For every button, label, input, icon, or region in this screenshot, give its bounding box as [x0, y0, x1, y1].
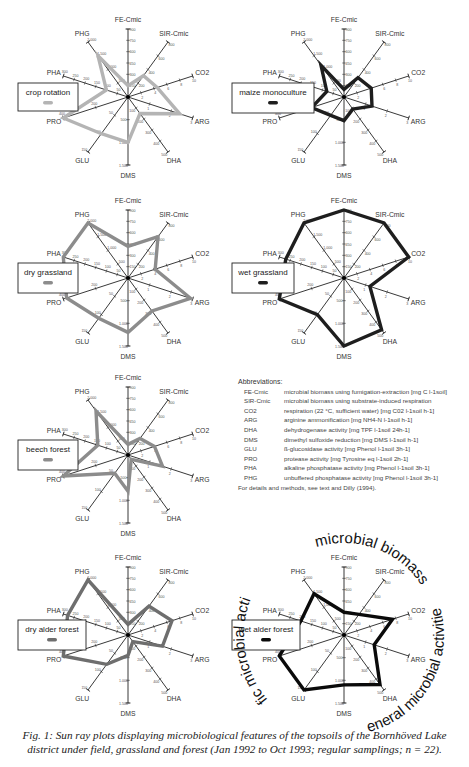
- axis-tick-label: 10: [192, 79, 196, 83]
- axis-label: PHA: [263, 607, 277, 614]
- axis-tick-label: 6: [383, 268, 385, 272]
- axis-tick-label: 50: [325, 649, 329, 653]
- axis-tick-label: 2.000: [303, 38, 312, 42]
- axis-tick-label: 50: [333, 88, 337, 92]
- axis-label: PHG: [75, 30, 90, 37]
- axis-tick-label: 750: [346, 577, 352, 581]
- abbreviation-key: DHA: [238, 425, 284, 435]
- axis-tick-label: 6: [383, 87, 385, 91]
- axis-tick-label: 200: [137, 301, 143, 305]
- axis-tick-label: 900: [346, 566, 352, 570]
- axis-tick-label: 300: [62, 608, 68, 612]
- axis-tick-label: 600: [375, 57, 381, 61]
- axis-tick-label: 200: [307, 640, 313, 644]
- axis-label: SIR-Cmic: [159, 568, 189, 575]
- axis-label: FE-Cmic: [115, 554, 142, 561]
- axis-tick-label: 400: [153, 500, 159, 504]
- axis-tick-label: 2: [385, 295, 387, 299]
- axis-label: PHA: [47, 69, 61, 76]
- radar-plot: 150300450600750900FE-Cmic200400600800SIR…: [18, 197, 210, 360]
- radar-plot: 150300450600750900FE-Cmic200400600800SIR…: [18, 374, 210, 537]
- axis-label: DMS: [120, 172, 136, 179]
- axis-label: PRO: [46, 476, 61, 483]
- axis-tick-label: 500: [337, 299, 343, 303]
- axis-tick-label: 150: [94, 81, 100, 85]
- axis-tick-label: 50: [333, 626, 337, 630]
- axis-tick-label: 300: [62, 70, 68, 74]
- abbreviation-key: FE-Cmic: [238, 387, 284, 397]
- axis-tick-label: 1.000: [335, 679, 344, 683]
- axis-label: CO2: [411, 69, 425, 76]
- abbreviation-row: GLUß-glucosidase activity [mg Phenol l-1…: [238, 444, 466, 454]
- axis-tick-label: 100: [129, 290, 135, 294]
- legend-label: dry grassland: [24, 268, 72, 277]
- axis-tick-label: 1.500: [335, 702, 344, 706]
- axis-label: ARG: [411, 299, 426, 306]
- axis-tick-label: 100: [345, 290, 351, 294]
- axis-tick-label: 400: [149, 252, 155, 256]
- abbreviation-key: GLU: [238, 444, 284, 454]
- axis-tick-label: 1: [147, 465, 149, 469]
- axis-label: DMS: [120, 353, 136, 360]
- axis-label: PRO: [46, 656, 61, 663]
- axis-label: GLU: [291, 157, 305, 164]
- abbreviation-row: PROprotease activity [mg Tyrosine eq l-1…: [238, 454, 466, 464]
- axis-label: PHG: [291, 568, 306, 575]
- axis-tick-label: 2: [385, 114, 387, 118]
- axis-label: GLU: [75, 157, 89, 164]
- axis-tick-label: 2: [169, 295, 171, 299]
- axis-tick-label: 1: [363, 645, 365, 649]
- abbreviation-row: FE-Cmicmicrobial biomass using fumigatio…: [238, 387, 466, 397]
- axis-tick-label: 50: [117, 88, 121, 92]
- axis-tick-label: 200: [83, 258, 89, 262]
- axis-tick-label: 3: [190, 479, 192, 483]
- plot-center: [342, 276, 346, 280]
- axis-tick-label: 10: [192, 260, 196, 264]
- axis-tick-label: 3: [190, 121, 192, 125]
- axis-tick-label: 250: [72, 255, 78, 259]
- axis-tick-label: 300: [62, 428, 68, 432]
- axis-tick-label: 4: [154, 91, 156, 95]
- axis-tick-label: 450: [130, 600, 136, 604]
- axis-tick-label: 400: [149, 429, 155, 433]
- axis-tick-label: 150: [81, 506, 87, 510]
- plot-center: [342, 95, 346, 99]
- abbreviation-row: DMSdimethyl sulfoxide reduction [mg DMS …: [238, 435, 466, 445]
- axis-tick-label: 1.500: [119, 702, 128, 706]
- axis-tick-label: 500: [335, 260, 341, 264]
- axis-label: PRO: [46, 299, 61, 306]
- axis-tick-label: 150: [81, 148, 87, 152]
- axis-tick-label: 150: [94, 619, 100, 623]
- axis-tick-label: 100: [129, 109, 135, 113]
- axis-tick-label: 100: [95, 488, 101, 492]
- abbreviation-row: PHGunbuffered phosphatase activity [mg P…: [238, 473, 466, 483]
- abbreviation-key: DMS: [238, 435, 284, 445]
- axis-label: PHG: [291, 30, 306, 37]
- plot-center: [126, 95, 130, 99]
- axis-tick-label: 2: [357, 277, 359, 281]
- axis-tick-label: 50: [117, 269, 121, 273]
- axis-label: SIR-Cmic: [375, 30, 405, 37]
- legend-swatch: [43, 101, 53, 105]
- axis-tick-label: 1.000: [323, 246, 332, 250]
- axis-tick-label: 10: [408, 79, 412, 83]
- axis-tick-label: 200: [83, 615, 89, 619]
- axis-tick-label: 450: [130, 62, 136, 66]
- axis-tick-label: 600: [159, 415, 165, 419]
- axis-tick-label: 200: [299, 77, 305, 81]
- axis-tick-label: 400: [365, 252, 371, 256]
- axis-tick-label: 2: [385, 652, 387, 656]
- axis-tick-label: 2: [141, 634, 143, 638]
- axis-tick-label: 200: [137, 658, 143, 662]
- axis-label: GLU: [75, 338, 89, 345]
- axis-tick-label: 4: [370, 629, 372, 633]
- axis-tick-label: 300: [361, 131, 367, 135]
- axis-label: FE-Cmic: [331, 554, 358, 561]
- axis-tick-label: 300: [346, 73, 352, 77]
- axis-line: [344, 97, 384, 152]
- axis-tick-label: 250: [288, 612, 294, 616]
- abbreviation-row: ARGarginine ammonification [mg NH4-N l-1…: [238, 415, 466, 425]
- axis-tick-label: 1.000: [335, 141, 344, 145]
- axis-tick-label: 200: [355, 84, 361, 88]
- axis-tick-label: 50: [117, 626, 121, 630]
